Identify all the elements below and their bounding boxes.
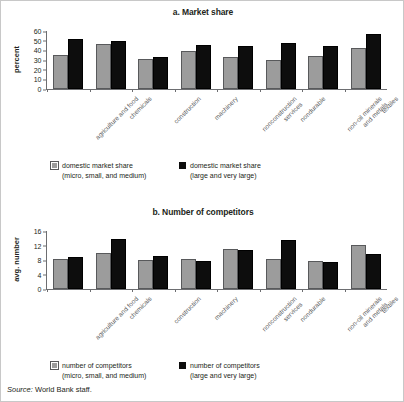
bar-small-firms [223, 249, 238, 289]
panel-a-plot: percent 0102030405060 agriculture and fo… [1, 17, 404, 167]
bar-large-firms [238, 46, 253, 90]
bar-small-firms [53, 259, 68, 289]
category-label: construction [172, 295, 202, 325]
bar-group [175, 31, 218, 89]
panel-a-bar-groups [47, 31, 387, 89]
bar-group [217, 231, 260, 289]
panel-a-axes [46, 31, 387, 90]
y-tick-label: 60 [34, 28, 46, 35]
panel-number-of-competitors: b. Number of competitors avg. number 048… [1, 207, 404, 367]
panel-b-title: b. Number of competitors [1, 207, 404, 217]
bar-large-firms [111, 239, 126, 289]
y-tick-label: 50 [34, 37, 46, 44]
bar-large-firms [68, 39, 83, 89]
y-tick-label: 0 [38, 286, 46, 293]
bar-small-firms [138, 59, 153, 89]
category-label: textiles [380, 95, 400, 115]
black-swatch [179, 362, 186, 369]
bar-large-firms [366, 254, 381, 289]
panel-market-share: a. Market share percent 0102030405060 ag… [1, 7, 404, 167]
legend-label: number of competitors(micro, small, and … [62, 361, 146, 380]
bar-small-firms [181, 51, 196, 89]
bar-large-firms [153, 256, 168, 289]
gray-swatch [51, 362, 58, 369]
legend-item: domestic market share(micro, small, and … [51, 161, 146, 180]
y-tick-label: 10 [34, 76, 46, 83]
bar-small-firms [223, 57, 238, 89]
category-label: machinery [213, 295, 240, 322]
bar-group [90, 31, 133, 89]
bar-group [47, 231, 90, 289]
category-label: non-oil mineralsand metals [345, 95, 388, 138]
panel-a-title: a. Market share [1, 7, 404, 17]
panel-a-legend: domestic market share(micro, small, and … [1, 161, 404, 185]
bar-large-firms [111, 41, 126, 89]
panel-b-plot: avg. number 0481216 agriculture and food… [1, 217, 404, 367]
category-label: textiles [380, 295, 400, 315]
legend-item: domestic market share(large and very lar… [179, 161, 261, 180]
legend-item: number of competitors(large and very lar… [179, 361, 260, 380]
source-text: World Bank staff. [35, 385, 92, 394]
figure-container: a. Market share percent 0102030405060 ag… [0, 0, 404, 402]
category-label: nonconstructionservices [260, 295, 303, 338]
source-label: Source: [7, 385, 33, 394]
bar-large-firms [196, 261, 211, 289]
bar-group [260, 231, 303, 289]
panel-b-bar-groups [47, 231, 387, 289]
bar-group [217, 31, 260, 89]
category-label: non-oil mineralsand metals [345, 295, 388, 338]
y-tick-label: 20 [34, 66, 46, 73]
bar-group [132, 231, 175, 289]
bar-small-firms [53, 55, 68, 89]
bar-group [302, 231, 345, 289]
bar-large-firms [323, 262, 338, 289]
panel-b-axes [46, 231, 387, 290]
bar-small-firms [266, 259, 281, 289]
y-tick-label: 16 [34, 228, 46, 235]
y-tick-label: 12 [34, 242, 46, 249]
y-tick-label: 30 [34, 57, 46, 64]
bar-group [132, 31, 175, 89]
legend-label: number of competitors(large and very lar… [190, 361, 260, 380]
panel-b-y-axis-label: avg. number [12, 231, 21, 289]
source-note: Source: World Bank staff. [7, 385, 92, 394]
bar-large-firms [153, 57, 168, 89]
bar-large-firms [238, 250, 253, 289]
legend-label: domestic market share(large and very lar… [190, 161, 261, 180]
bar-large-firms [68, 257, 83, 289]
bar-small-firms [351, 48, 366, 89]
bar-group [90, 231, 133, 289]
bar-small-firms [308, 56, 323, 89]
bar-large-firms [196, 45, 211, 89]
gray-swatch [51, 162, 58, 169]
bar-group [302, 31, 345, 89]
bar-group [47, 31, 90, 89]
y-tick-label: 0 [38, 86, 46, 93]
bar-large-firms [366, 34, 381, 89]
bar-group [260, 31, 303, 89]
y-tick-label: 40 [34, 47, 46, 54]
category-label: nondurable [299, 95, 327, 123]
bar-large-firms [323, 46, 338, 89]
panel-b-y-ticks: 0481216 [24, 231, 46, 289]
y-tick-label: 8 [38, 257, 46, 264]
panel-a-y-axis-label: percent [12, 31, 21, 89]
bar-small-firms [351, 245, 366, 289]
category-label: machinery [213, 95, 240, 122]
bar-small-firms [308, 261, 323, 289]
category-label: construction [172, 95, 202, 125]
black-swatch [179, 162, 186, 169]
bar-small-firms [96, 253, 111, 289]
bar-small-firms [138, 260, 153, 289]
bar-small-firms [96, 44, 111, 89]
legend-label: domestic market share(micro, small, and … [62, 161, 146, 180]
bar-small-firms [266, 60, 281, 89]
legend-item: number of competitors(micro, small, and … [51, 361, 146, 380]
y-tick-label: 4 [38, 271, 46, 278]
panel-b-legend: number of competitors(micro, small, and … [1, 361, 404, 385]
panel-a-y-ticks: 0102030405060 [24, 31, 46, 89]
category-label: nondurable [299, 295, 327, 323]
bar-group [345, 31, 388, 89]
category-label: nonconstructionservices [260, 95, 303, 138]
bar-large-firms [281, 43, 296, 89]
